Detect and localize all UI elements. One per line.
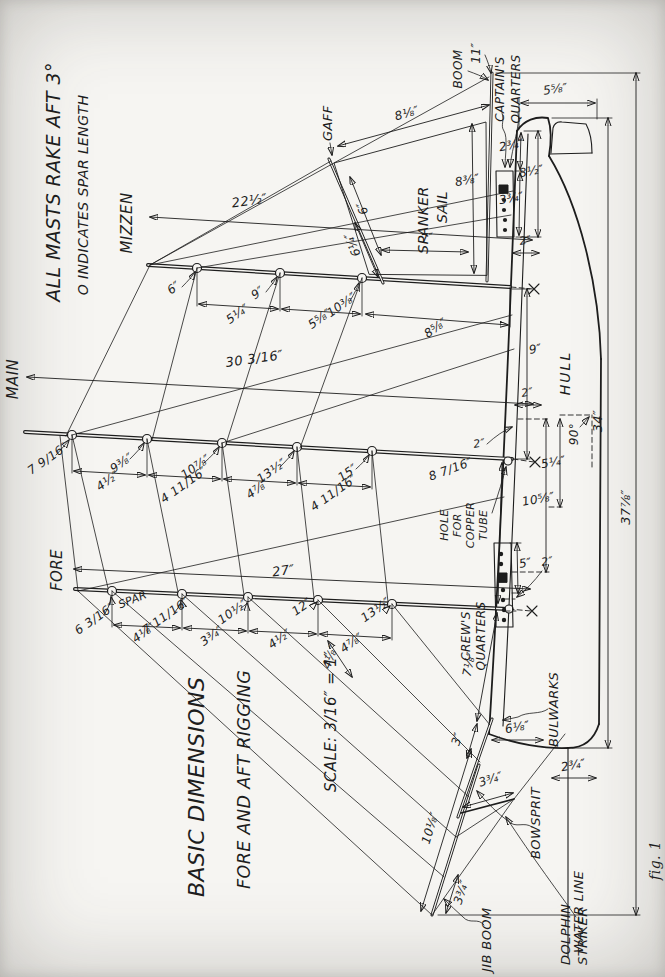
dim-overall-length: 37⅞″ [618,489,633,525]
dim-main-length: 30 3/16″ [225,347,284,370]
label-gaff: GAFF [320,105,335,141]
title-line-1: BASIC DIMENSIONS [184,677,209,897]
dim-keel-2: 5¼″ [540,453,567,471]
bow-dimensions: 7⅛″ 3″ 4⅛″ 6⅛″ 2¾″ 10⅛″ 3¾″ 3¾″ BULWARKS… [319,613,596,975]
gaff-halyard [150,161,331,265]
mizzen-mast [148,264,539,295]
fore-stay-4 [248,597,469,797]
dim-hull-length: 34″ [590,410,605,433]
dim-crew-hatch: 2″ [540,554,554,569]
main-dimensions: 4½″ 4 11/16″ 4⅞″ 4 11/16″ 7 9/16″ 9⅜″ 10… [4,347,533,514]
label-main-mast: MAIN [4,359,22,399]
dim-jib-length: 10⅛″ [419,810,442,846]
label-mizzen-spar-0: 6″ [164,278,183,297]
dim-bow-height: 6⅛″ [504,718,531,736]
dim-mizzen-step-depth: 2″ [518,233,532,248]
general-notes: ALL MASTS RAKE AFT 3° O INDICATES SPAR L… [42,62,91,304]
dim-tip-gap: 3¾″ [451,878,472,906]
label-mizzen-mast: MIZZEN [118,192,136,253]
martingale-stay-2 [456,799,514,837]
sheer-rail-line [489,131,517,734]
label-hole-4: TUBE [477,510,490,541]
dim-spanker-leech: 8⅛″ [393,103,421,123]
label-spanker-2: SAIL [434,191,450,223]
title-block: BASIC DIMENSIONS FORE AND AFT RIGGING SC… [184,651,340,897]
title-line-2: FORE AND AFT RIGGING [234,670,254,889]
main-stay-1 [72,435,108,588]
label-fore-spar-1: 7 11/16″ [140,595,192,637]
label-bowsprit: BOWSPRIT [528,786,543,859]
dim-boom-length: 11″ [469,42,483,63]
fore-length-dim-line [74,569,530,589]
dim-stem-to-waterline: 2¾″ [560,756,587,774]
label-hole-1: HOLE [438,509,451,541]
dim-mizzen-length: 22½″ [231,191,268,211]
label-captains-quarters-2: QUARTERS [509,55,523,124]
label-bulwarks: BULWARKS [546,672,561,747]
label-mizzen-spar-2: 10⅜″ [324,289,359,319]
label-boom: BOOM [451,49,465,88]
note-spar: O INDICATES SPAR LENGTH [75,95,91,296]
label-fore-mast: FORE [48,549,66,591]
main-backstay-1 [72,315,512,435]
boom-topping-lift [150,77,489,265]
dim-main-step-note: 2″ [472,436,486,451]
deck-line [503,134,528,726]
dim-sprit-gap: 3″ [449,730,466,747]
main-mast-below-deck [513,459,534,462]
fore-dimensions: 4⅛″ 3¾″ 4½″ 4⅞″ 6 3/16″ 7 11/16″ 10½″ 12… [48,549,530,656]
label-captains-quarters-1: CAPTAIN'S [493,56,507,121]
main-length-dim-line [27,377,533,404]
main-stay-2 [147,439,178,592]
head-rig [432,719,565,915]
stern-run-curve [549,156,601,359]
stern-dimensions: 5⅝″ 2¾″ 3¾″ 8½″ 2″ 9″ CAPTAIN'S QUARTERS [493,55,597,459]
dim-fore-spacing-1: 3¾″ [197,623,226,649]
dim-fore-to-main: 8 7/16″ [427,455,475,484]
dim-overall-aft: 8½″ [518,162,545,180]
dim-striker-length: 3¾″ [477,769,505,790]
label-fore-spar-4: 13½″ [358,594,393,624]
rudder [551,122,592,153]
label-hole-2: FOR [451,513,464,537]
dim-main-to-mizzen: 9″ [528,341,543,357]
fore-mast-hole [505,605,513,613]
label-main-spar-0: 7 9/16″ [25,440,71,478]
dim-fore-length: 27″ [271,562,295,580]
dim-captains-house-length: 3¾″ [498,189,525,207]
dim-main-step-depth: 2″ [520,385,534,400]
note-rake: ALL MASTS RAKE AFT 3° [42,62,64,304]
hull-profile [489,118,601,957]
label-hull: HULL [557,351,573,395]
dim-crew-house-length: 5″ [518,555,533,571]
dim-fore-spacing-2: 4½″ [265,626,294,652]
figure-caption: fig. 1 [647,841,663,881]
dim-keel-1: 10⅝″ [521,489,556,509]
main-stay-4 [297,447,314,598]
dim-spanker-foot: 8⅜″ [454,171,481,189]
dim-mizzen-spacing-0: 5¼″ [223,301,252,327]
label-mizzen-spar-1: 9″ [248,283,267,302]
title-scale: SCALE: 3/16″ = 1″ [322,651,340,792]
label-main-spar-1: 9⅜″ [107,450,136,476]
midship-dimensions: HOLE FOR COPPER TUBE 8 7/16″ 2″ 2″ 10⅝″ … [427,351,592,603]
label-fore-spar-0: 6 3/16″ [72,600,118,638]
main-stay-5 [372,451,388,602]
dim-spanker-luff: 7″ [420,230,435,246]
book-page-photo: 4⅛″ 3¾″ 4½″ 4⅞″ 6 3/16″ 7 11/16″ 10½″ 12… [0,0,665,977]
main-stay-3 [222,443,244,595]
label-fore-spar-2: 10½″ [215,596,250,626]
label-water-line: WATER LINE [571,870,586,953]
main-mast-hole [504,457,512,465]
dim-counter-height: 5⅝″ [542,80,569,97]
label-jib-boom: JIB BOOM [479,907,494,975]
fore-royal-stay [78,591,432,915]
sternpost [550,153,592,154]
rigging-drawing: 4⅛″ 3¾″ 4½″ 4⅞″ 6 3/16″ 7 11/16″ 10½″ 12… [0,0,665,977]
label-right-angle: 90° [567,423,581,445]
dim-fore-spacing-3: 4⅞″ [337,630,366,656]
dim-spanker-head: 6″ [353,200,371,217]
label-hole-3: COPPER [464,502,477,549]
